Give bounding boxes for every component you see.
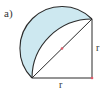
figure-label: a) <box>4 7 13 20</box>
right-side-label: r <box>96 42 100 53</box>
bottom-side-label: r <box>59 79 63 90</box>
shaded-lune <box>20 6 92 78</box>
corner-marker <box>91 77 94 80</box>
geometry-diagram: a) r r <box>0 0 103 90</box>
midpoint-marker <box>61 47 64 50</box>
